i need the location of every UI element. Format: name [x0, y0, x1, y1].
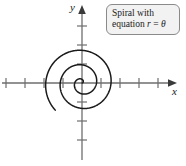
callout-variable-theta: θ [161, 19, 166, 29]
y-axis-label: y [70, 2, 75, 13]
equation-callout-box: Spiral with equation r = θ [106, 4, 180, 35]
callout-line-1: Spiral with [112, 8, 175, 19]
callout-equals-sign: = [151, 19, 161, 29]
x-axis-label: x [172, 86, 177, 97]
y-axis-arrow-icon [78, 5, 86, 14]
callout-line-2: equation r = θ [112, 19, 175, 30]
spiral-figure: y x Spiral with equation r = θ [0, 0, 186, 166]
callout-equation-prefix: equation [112, 19, 147, 29]
